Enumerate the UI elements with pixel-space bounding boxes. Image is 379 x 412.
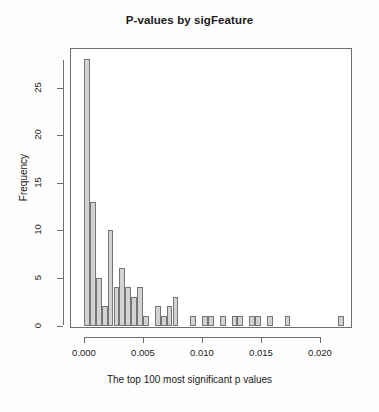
y-axis-tick [57,183,63,184]
chart-title: P-values by sigFeature [0,14,379,26]
y-axis-tick-label: 5 [32,263,43,293]
x-axis-title: The top 100 most significant p values [0,374,379,385]
x-axis-tick-label: 0.010 [179,347,225,358]
x-axis-tick [320,337,321,343]
x-axis-tick [202,337,203,343]
x-axis-tick [143,337,144,343]
plot-frame [70,48,352,328]
x-axis-tick [84,337,85,343]
y-axis-tick [57,230,63,231]
y-axis-tick-label: 10 [32,215,43,245]
y-axis-tick [57,326,63,327]
x-axis-tick [261,337,262,343]
y-axis-tick [57,135,63,136]
y-axis-tick-label: 15 [32,168,43,198]
y-axis-tick [57,88,63,89]
y-axis-line [63,60,64,325]
histogram-figure: P-values by sigFeature 0510152025 0.0000… [0,0,379,412]
x-axis-tick-label: 0.015 [238,347,284,358]
y-axis-tick [57,278,63,279]
y-axis-tick-label: 0 [32,311,43,341]
x-axis-tick-label: 0.005 [120,347,166,358]
x-axis-tick-label: 0.000 [61,347,107,358]
y-axis-tick-label: 25 [32,73,43,103]
x-axis-tick-label: 0.020 [297,347,343,358]
y-axis-title: Frequency [18,133,29,223]
y-axis-tick-label: 20 [32,120,43,150]
